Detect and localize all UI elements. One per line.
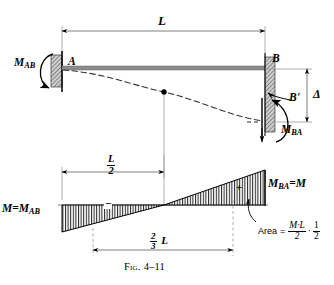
area-term2-fraction: 1 2 [313,221,320,242]
moment-negative-region [62,205,164,232]
left-label-ref-sub: AB [29,207,40,216]
figure-container: L L 2 2 3 L A B B' Δ MAB MBA M=MAB MBA=M… [0,0,334,285]
dimension-extension-lines [62,26,265,70]
half-span-label: L 2 [107,154,115,177]
area-annotation: Area= M·L 2 · 1 2 [258,221,320,242]
caption-number: 4–11 [144,261,165,272]
caption-prefix: Fig. [124,261,141,272]
moment-ba-label: MBA [281,124,302,138]
beam-member [62,66,265,70]
deflection-curve [63,70,263,122]
half-span-denominator: 2 [107,166,115,177]
span-length-label: L [158,14,166,27]
curve-midpoint-dot [161,89,166,94]
moment-diagram-left-label: M=MAB [2,203,40,217]
displacement-label: Δ [313,88,321,100]
right-label-value: M [296,177,306,189]
figure-caption: Fig.4–11 [124,262,165,273]
node-a-label: A [68,56,76,68]
moment-ba-subscript: BA [291,128,302,137]
moment-diagram-right-label: MBA=M [268,178,306,192]
two-thirds-variable: L [161,234,168,246]
area-term1-fraction: M·L 2 [288,221,306,242]
centroid-distance-label: 2 3 L [150,232,168,252]
area-term2-denominator: 2 [313,232,320,242]
area-word: Area [258,226,277,236]
moment-ba-symbol: M [281,123,291,135]
two-thirds-fraction: 2 3 [150,232,157,252]
moment-positive-region [164,170,265,205]
node-b-displaced-label: B' [289,92,300,104]
left-label-ref: M [19,202,29,214]
area-equals: = [280,226,285,236]
area-term1-denominator: 2 [288,232,306,242]
negative-sign-label: − [104,198,112,209]
right-label-ref-sub: BA [278,182,289,191]
two-thirds-denominator: 3 [150,242,157,251]
right-label-ref: M [268,177,278,189]
moment-ab-subscript: AB [24,61,35,70]
moment-ab-label: MAB [14,57,35,71]
positive-sign-label: + [236,182,242,193]
area-multiply-dot: · [308,226,311,236]
half-span-fraction: L 2 [107,154,115,177]
node-b-label: B [272,53,280,65]
moment-ab-symbol: M [14,56,24,68]
support-a-fixed [51,51,62,92]
left-label-m: M [2,202,12,214]
